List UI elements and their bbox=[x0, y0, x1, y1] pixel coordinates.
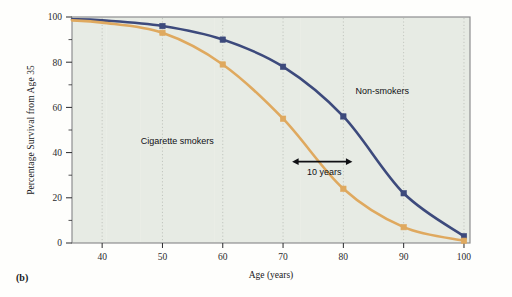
data-point-cigarette-smokers-100 bbox=[461, 238, 466, 243]
data-point-non-smokers-80 bbox=[341, 114, 346, 119]
data-point-non-smokers-50 bbox=[160, 23, 165, 28]
x-tick-label-40: 40 bbox=[97, 252, 107, 262]
cigarette-smokers-label: Cigarette smokers bbox=[141, 136, 215, 146]
y-tick-label-40: 40 bbox=[53, 148, 63, 158]
data-point-cigarette-smokers-80 bbox=[341, 186, 346, 191]
figure-panel: 020406080100 405060708090100 Percentage … bbox=[0, 0, 512, 297]
x-tick-label-100: 100 bbox=[457, 252, 472, 262]
y-tick-label-100: 100 bbox=[48, 12, 63, 22]
survival-curve-chart: 020406080100 405060708090100 Percentage … bbox=[0, 0, 512, 297]
y-tick-label-0: 0 bbox=[57, 238, 62, 248]
x-axis-title: Age (years) bbox=[249, 270, 294, 281]
x-tick-label-80: 80 bbox=[339, 252, 349, 262]
data-point-non-smokers-90 bbox=[401, 191, 406, 196]
data-point-non-smokers-70 bbox=[280, 64, 285, 69]
x-tick-label-90: 90 bbox=[399, 252, 409, 262]
x-tick-label-50: 50 bbox=[158, 252, 168, 262]
x-tick-label-60: 60 bbox=[218, 252, 228, 262]
plot-area-background bbox=[72, 17, 470, 243]
data-point-cigarette-smokers-70 bbox=[280, 116, 285, 121]
x-axis: 405060708090100 bbox=[97, 243, 471, 262]
data-point-non-smokers-60 bbox=[220, 37, 225, 42]
non-smokers-label: Non-smokers bbox=[355, 86, 409, 96]
panel-caption: (b) bbox=[16, 272, 28, 284]
y-axis: 020406080100 bbox=[48, 12, 72, 248]
data-point-cigarette-smokers-90 bbox=[401, 224, 406, 229]
ten-year-gap-label: 10 years bbox=[307, 167, 342, 177]
data-point-cigarette-smokers-50 bbox=[160, 30, 165, 35]
y-tick-label-20: 20 bbox=[53, 193, 63, 203]
data-point-cigarette-smokers-60 bbox=[220, 62, 225, 67]
y-axis-title: Percentage Survival from Age 35 bbox=[26, 65, 36, 195]
y-tick-label-80: 80 bbox=[53, 58, 63, 68]
y-tick-label-60: 60 bbox=[53, 103, 63, 113]
x-tick-label-70: 70 bbox=[278, 252, 288, 262]
